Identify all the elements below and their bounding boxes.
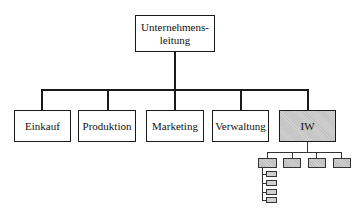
iw-sub-unit-box bbox=[333, 158, 351, 168]
iw-sub-unit-box bbox=[258, 158, 277, 168]
root-box-unternehmensleitung: Unternehmens- leitung bbox=[135, 15, 215, 52]
root-label-line1: Unternehmens- bbox=[141, 21, 209, 34]
connector-iw bbox=[307, 89, 309, 110]
root-connector bbox=[174, 51, 176, 90]
iw-subsub-unit-box bbox=[266, 171, 277, 177]
iw-subsub-unit-box bbox=[266, 180, 277, 186]
department-label: Einkauf bbox=[25, 120, 60, 133]
connector-verwaltung bbox=[240, 89, 242, 110]
iw-sub-unit-box bbox=[283, 158, 301, 168]
iw-sub-connector bbox=[307, 142, 308, 152]
department-label: Verwaltung bbox=[215, 120, 266, 133]
department-box-iw: IW bbox=[279, 110, 336, 142]
iw-sub-bus bbox=[267, 152, 342, 153]
department-box-verwaltung: Verwaltung bbox=[212, 110, 269, 142]
department-box-marketing: Marketing bbox=[146, 110, 204, 142]
connector-einkauf bbox=[41, 89, 43, 110]
department-label: IW bbox=[300, 120, 314, 133]
department-box-produktion: Produktion bbox=[78, 110, 136, 142]
iw-sub-unit-box bbox=[308, 158, 326, 168]
iw-subsub-spine bbox=[262, 168, 263, 201]
root-label-line2: leitung bbox=[160, 34, 191, 47]
department-box-einkauf: Einkauf bbox=[14, 110, 71, 142]
department-label: Produktion bbox=[83, 120, 132, 133]
iw-subsub-unit-box bbox=[266, 189, 277, 195]
connector-produktion bbox=[107, 89, 109, 110]
connector-marketing bbox=[174, 89, 176, 110]
department-label: Marketing bbox=[152, 120, 198, 133]
iw-subsub-unit-box bbox=[266, 197, 277, 203]
